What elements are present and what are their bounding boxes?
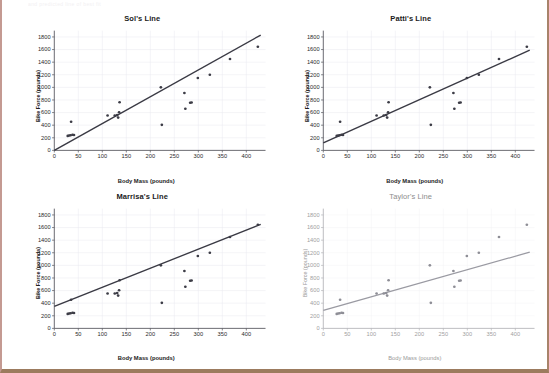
chart-title: Patti's Line xyxy=(277,14,546,23)
plot-area[interactable]: Bike Force (pounds) Body Mass (pounds) 0… xyxy=(291,204,540,344)
svg-text:0: 0 xyxy=(321,330,324,336)
svg-text:350: 350 xyxy=(486,153,496,159)
chart-panel-marrisas-line[interactable]: Marrisa's Line Bike Force (pounds) Body … xyxy=(8,188,277,366)
svg-text:800: 800 xyxy=(41,275,51,281)
svg-text:1600: 1600 xyxy=(38,224,51,230)
svg-text:400: 400 xyxy=(310,300,320,306)
svg-text:800: 800 xyxy=(41,97,51,103)
chart-panel-sols-line[interactable]: Sol's Line Bike Force (pounds) Body Mass… xyxy=(8,10,277,188)
svg-text:350: 350 xyxy=(486,330,496,336)
svg-text:150: 150 xyxy=(122,330,132,336)
svg-text:100: 100 xyxy=(98,153,108,159)
svg-text:0: 0 xyxy=(53,330,56,336)
svg-text:200: 200 xyxy=(414,153,424,159)
scatter-svg: 0200400600800100012001400160018000501001… xyxy=(291,26,540,166)
svg-text:400: 400 xyxy=(310,122,320,128)
svg-text:250: 250 xyxy=(170,330,180,336)
svg-text:100: 100 xyxy=(366,330,376,336)
svg-text:0: 0 xyxy=(321,153,324,159)
svg-text:600: 600 xyxy=(41,110,51,116)
svg-text:150: 150 xyxy=(390,153,400,159)
x-axis-label: Body Mass (pounds) xyxy=(22,178,271,184)
faint-header-text: and predicted line of best fit xyxy=(28,1,328,9)
plot-area[interactable]: Bike Force (pounds) Body Mass (pounds) 0… xyxy=(22,26,271,166)
svg-text:1200: 1200 xyxy=(38,72,51,78)
svg-text:250: 250 xyxy=(170,153,180,159)
svg-text:100: 100 xyxy=(366,153,376,159)
svg-text:250: 250 xyxy=(438,330,448,336)
svg-text:200: 200 xyxy=(310,135,320,141)
svg-text:50: 50 xyxy=(75,330,81,336)
svg-text:200: 200 xyxy=(310,312,320,318)
svg-text:600: 600 xyxy=(310,287,320,293)
svg-text:250: 250 xyxy=(438,153,448,159)
svg-text:300: 300 xyxy=(194,330,204,336)
svg-text:400: 400 xyxy=(41,122,51,128)
svg-text:0: 0 xyxy=(316,325,319,331)
chart-title: Sol's Line xyxy=(8,14,277,23)
x-axis-label: Body Mass (pounds) xyxy=(291,355,540,361)
svg-text:1600: 1600 xyxy=(38,47,51,53)
plot-area[interactable]: Bike Force (pounds) Body Mass (pounds) 0… xyxy=(291,26,540,166)
svg-text:300: 300 xyxy=(194,153,204,159)
page-root: and predicted line of best fit Sol's Lin… xyxy=(0,0,549,373)
svg-text:350: 350 xyxy=(218,153,228,159)
svg-text:1200: 1200 xyxy=(306,72,319,78)
svg-text:1000: 1000 xyxy=(306,262,319,268)
svg-text:200: 200 xyxy=(41,135,51,141)
svg-text:0: 0 xyxy=(47,325,50,331)
svg-text:800: 800 xyxy=(310,275,320,281)
svg-text:1400: 1400 xyxy=(306,237,319,243)
svg-text:1800: 1800 xyxy=(306,34,319,40)
svg-text:1000: 1000 xyxy=(306,84,319,90)
x-axis-label: Body Mass (pounds) xyxy=(22,355,271,361)
svg-text:400: 400 xyxy=(510,330,520,336)
svg-text:350: 350 xyxy=(218,330,228,336)
chart-title: Marrisa's Line xyxy=(8,192,277,201)
svg-text:1200: 1200 xyxy=(38,249,51,255)
svg-text:0: 0 xyxy=(53,153,56,159)
svg-text:300: 300 xyxy=(462,153,472,159)
svg-text:50: 50 xyxy=(344,153,350,159)
svg-text:800: 800 xyxy=(310,97,320,103)
chart-grid: Sol's Line Bike Force (pounds) Body Mass… xyxy=(8,10,545,365)
scatter-svg: 0200400600800100012001400160018000501001… xyxy=(22,204,271,344)
svg-text:200: 200 xyxy=(41,312,51,318)
chart-panel-pattis-line[interactable]: Patti's Line Bike Force (pounds) Body Ma… xyxy=(277,10,546,188)
svg-text:0: 0 xyxy=(47,147,50,153)
svg-text:0: 0 xyxy=(316,147,319,153)
x-axis-label: Body Mass (pounds) xyxy=(291,178,540,184)
svg-text:150: 150 xyxy=(390,330,400,336)
chart-title: Taylor's Line xyxy=(277,192,546,201)
svg-text:400: 400 xyxy=(41,300,51,306)
scatter-svg: 0200400600800100012001400160018000501001… xyxy=(22,26,271,166)
svg-text:1400: 1400 xyxy=(38,59,51,65)
svg-text:100: 100 xyxy=(98,330,108,336)
svg-text:600: 600 xyxy=(41,287,51,293)
chart-panel-taylors-line[interactable]: Taylor's Line Bike Force (pounds) Body M… xyxy=(277,188,546,366)
svg-text:1600: 1600 xyxy=(306,224,319,230)
svg-text:300: 300 xyxy=(462,330,472,336)
svg-text:50: 50 xyxy=(75,153,81,159)
svg-text:1800: 1800 xyxy=(38,34,51,40)
plot-area[interactable]: Bike Force (pounds) Body Mass (pounds) 0… xyxy=(22,204,271,344)
svg-text:200: 200 xyxy=(146,330,156,336)
svg-text:400: 400 xyxy=(242,330,252,336)
svg-text:1600: 1600 xyxy=(306,47,319,53)
svg-text:400: 400 xyxy=(242,153,252,159)
svg-text:1400: 1400 xyxy=(306,59,319,65)
svg-text:200: 200 xyxy=(146,153,156,159)
svg-text:1200: 1200 xyxy=(306,249,319,255)
svg-text:1800: 1800 xyxy=(38,211,51,217)
svg-text:1000: 1000 xyxy=(38,84,51,90)
svg-text:1800: 1800 xyxy=(306,211,319,217)
svg-text:200: 200 xyxy=(414,330,424,336)
svg-text:150: 150 xyxy=(122,153,132,159)
svg-text:400: 400 xyxy=(510,153,520,159)
svg-text:50: 50 xyxy=(344,330,350,336)
svg-text:1000: 1000 xyxy=(38,262,51,268)
svg-text:600: 600 xyxy=(310,110,320,116)
svg-text:1400: 1400 xyxy=(38,237,51,243)
scatter-svg: 0200400600800100012001400160018000501001… xyxy=(291,204,540,344)
